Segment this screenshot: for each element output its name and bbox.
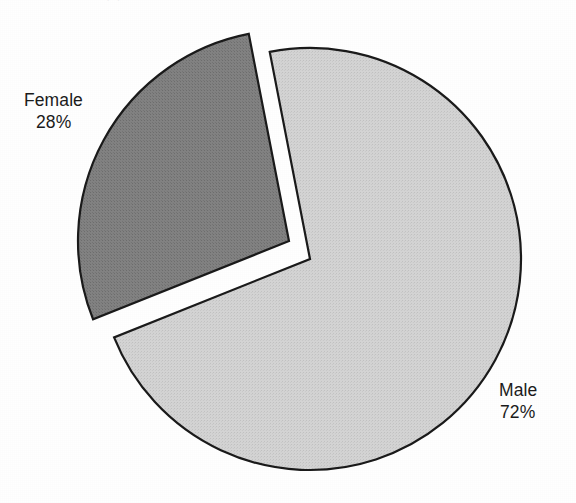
pie-slice-female[interactable] — [78, 34, 289, 319]
pie-chart-figure: · · Female 28% Male 72% — [0, 0, 576, 503]
pie-label-female: Female 28% — [24, 89, 83, 133]
pie-label-female-percent: 28% — [24, 111, 83, 133]
pie-chart-svg — [0, 0, 576, 503]
pie-label-female-name: Female — [24, 89, 83, 111]
pie-label-male-percent: 72% — [499, 401, 537, 423]
pie-label-male-name: Male — [499, 379, 537, 401]
pie-label-male: Male 72% — [499, 379, 537, 423]
